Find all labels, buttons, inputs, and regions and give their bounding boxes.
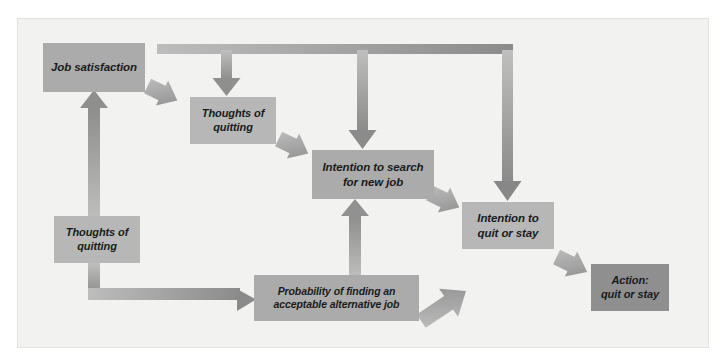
feedback-bus-trunk bbox=[157, 44, 513, 54]
thoughts-top-to-intention-search bbox=[272, 126, 314, 166]
node-job-satisfaction-line1: Job satisfaction bbox=[51, 60, 137, 74]
node-action-quit-or-stay-line2: quit or stay bbox=[601, 288, 659, 301]
feedback-bus-to-intention-quit bbox=[494, 50, 522, 201]
node-intention-to-search-line1: Intention to search bbox=[323, 160, 424, 174]
node-intention-to-search[interactable]: Intention to search for new job bbox=[312, 150, 434, 199]
node-thoughts-of-quitting-top[interactable]: Thoughts of quitting bbox=[190, 97, 276, 144]
node-probability-line2: acceptable alternative job bbox=[274, 298, 400, 311]
node-action-quit-or-stay[interactable]: Action: quit or stay bbox=[591, 264, 669, 311]
probability-to-intention-quit bbox=[412, 277, 476, 335]
node-job-satisfaction[interactable]: Job satisfaction bbox=[43, 43, 145, 92]
intention-quit-to-action bbox=[550, 244, 593, 284]
figure-page: Job satisfaction Thoughts of quitting In… bbox=[0, 0, 725, 363]
node-intention-to-quit-or-stay-line1: Intention to bbox=[477, 211, 538, 225]
node-intention-to-quit-or-stay-line2: quit or stay bbox=[477, 226, 538, 240]
job-satisfaction-to-thoughts-top bbox=[141, 73, 183, 113]
node-thoughts-of-quitting-top-line2: quitting bbox=[202, 121, 264, 134]
node-intention-to-quit-or-stay[interactable]: Intention to quit or stay bbox=[462, 202, 554, 249]
thoughts-left-to-job-satisfaction bbox=[80, 90, 108, 216]
node-probability-of-finding-alternative[interactable]: Probability of finding an acceptable alt… bbox=[254, 275, 419, 321]
node-intention-to-search-line2: for new job bbox=[323, 175, 424, 189]
thoughts-left-to-probability bbox=[88, 263, 256, 311]
node-probability-line1: Probability of finding an bbox=[274, 285, 400, 298]
node-thoughts-of-quitting-left[interactable]: Thoughts of quitting bbox=[54, 216, 140, 263]
probability-to-intention-search bbox=[341, 199, 369, 276]
node-thoughts-of-quitting-top-line1: Thoughts of bbox=[202, 107, 264, 120]
node-action-quit-or-stay-line1: Action: bbox=[601, 274, 659, 287]
node-thoughts-of-quitting-left-line2: quitting bbox=[66, 240, 128, 253]
feedback-bus-to-intention-search bbox=[349, 50, 377, 149]
feedback-bus-to-thoughts-top bbox=[213, 50, 241, 96]
node-thoughts-of-quitting-left-line1: Thoughts of bbox=[66, 226, 128, 239]
